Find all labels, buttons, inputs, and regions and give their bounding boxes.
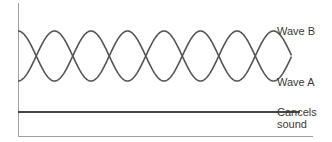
cancels-sound-label-line1: Cancels	[277, 106, 317, 118]
wave-a-label: Wave A	[277, 76, 315, 88]
wave-b-label: Wave B	[277, 25, 315, 37]
cancels-sound-label-line2: sound	[277, 118, 307, 130]
